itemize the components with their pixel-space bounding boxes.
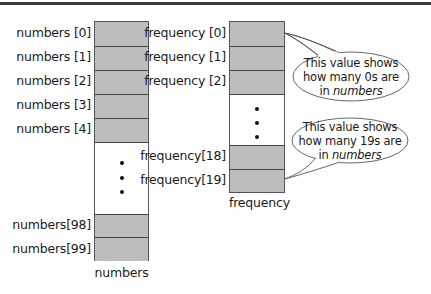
frequency-cell-0 [230, 22, 284, 46]
numbers-label-2: numbers [2] [16, 74, 91, 88]
ellipsis-dot [255, 107, 259, 111]
callout-1-line-1: This value shows [293, 56, 409, 70]
numbers-label-0: numbers [0] [16, 26, 91, 40]
frequency-label-2: frequency [2] [144, 74, 226, 88]
callout-2-italic: numbers [332, 148, 381, 162]
numbers-label-4: numbers [4] [16, 122, 91, 136]
frequency-label-19: frequency[19] [140, 173, 226, 187]
frequency-caption: frequency [229, 196, 285, 210]
frequency-cell-1 [230, 46, 284, 70]
ellipsis-dot [120, 190, 124, 194]
frequency-ellipsis-gap [230, 94, 284, 145]
numbers-cell-99 [95, 237, 148, 261]
callout-1-italic: numbers [333, 84, 382, 98]
frequency-cell-2 [230, 70, 284, 94]
callout-2-line-2: how many 19s are [292, 134, 408, 148]
numbers-array [94, 21, 149, 261]
callout-2-line-1: This value shows [292, 120, 408, 134]
numbers-cell-4 [95, 118, 148, 142]
frequency-cell-19 [230, 169, 284, 192]
callout-2-line-3: in numbers [292, 148, 408, 162]
frequency-label-18: frequency[18] [140, 149, 226, 163]
numbers-cell-2 [95, 70, 148, 94]
numbers-cell-98 [95, 214, 148, 237]
numbers-label-1: numbers [1] [16, 50, 91, 64]
numbers-caption: numbers [94, 266, 149, 280]
ellipsis-dot [120, 176, 124, 180]
numbers-label-98: numbers[98] [12, 218, 91, 232]
numbers-cell-3 [95, 94, 148, 118]
ellipsis-dot [255, 121, 259, 125]
top-rule [0, 2, 431, 5]
callout-1-line-2: how many 0s are [293, 70, 409, 84]
callout-1-text: This value shows how many 0s are in numb… [293, 56, 409, 98]
frequency-label-1: frequency [1] [144, 50, 226, 64]
numbers-cell-1 [95, 46, 148, 70]
ellipsis-dot [255, 135, 259, 139]
numbers-label-3: numbers [3] [16, 98, 91, 112]
frequency-label-0: frequency [0] [144, 26, 226, 40]
callout-1-prefix: in [319, 84, 333, 98]
frequency-cell-18 [230, 145, 284, 169]
ellipsis-dot [120, 161, 124, 165]
numbers-label-99: numbers[99] [12, 242, 91, 256]
callout-1-line-3: in numbers [293, 84, 409, 98]
numbers-cell-0 [95, 22, 148, 46]
callout-2-text: This value shows how many 19s are in num… [292, 120, 408, 162]
callout-2-prefix: in [318, 148, 332, 162]
frequency-array [229, 21, 285, 193]
